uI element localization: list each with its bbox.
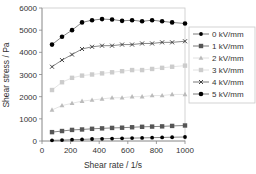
y-tick-label: 3000 [19,71,37,80]
series-2-kv-mm [50,92,188,112]
x-tick-label: 400 [93,146,107,155]
legend-label: 4 kV/mm [212,78,244,87]
y-tick-label: 4000 [19,48,37,57]
series-4-kv-mm [50,39,187,68]
y-tick-label: 1000 [19,115,37,124]
shear-stress-chart: 0100020003000400050006000020040060080010… [0,0,256,174]
x-tick-label: 800 [150,146,164,155]
legend-label: 5 kV/mm [212,90,244,99]
x-tick-label: 0 [40,146,45,155]
y-tick-label: 2000 [19,93,37,102]
legend-label: 3 kV/mm [212,66,244,75]
y-tick-label: 0 [33,137,38,146]
series-3-kv-mm [50,63,187,92]
legend: 0 kV/mm1 kV/mm2 kV/mm3 kV/mm4 kV/mm5 kV/… [189,27,255,103]
axes: 0100020003000400050006000020040060080010… [19,4,194,155]
x-tick-label: 200 [64,146,78,155]
legend-label: 2 kV/mm [212,54,244,63]
x-tick-label: 1000 [176,146,194,155]
x-tick-label: 600 [121,146,135,155]
legend-label: 1 kV/mm [212,42,244,51]
series-1-kv-mm [50,123,187,134]
y-tick-label: 6000 [19,4,37,13]
x-axis-label: Shear rate / 1/s [84,160,142,170]
legend-label: 0 kV/mm [212,30,244,39]
y-axis-label: Shear stress / Pa [1,42,11,107]
plot-area [42,8,185,141]
y-tick-label: 5000 [19,26,37,35]
series-layer [50,17,188,142]
